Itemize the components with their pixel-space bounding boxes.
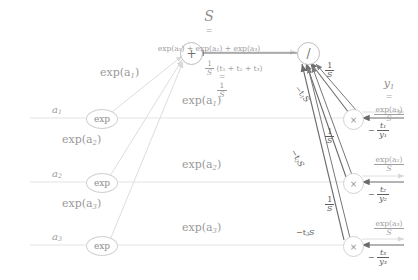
forward-label-rail-2-tail: ) <box>217 158 221 171</box>
node-exp-1: exp <box>86 109 118 129</box>
grad-one-over-s-1-fraction: 1 S <box>325 62 334 79</box>
output-3-den: S <box>374 228 405 237</box>
node-exp-3: exp <box>86 236 118 256</box>
output-3-grad-fraction: t₃ y₃ <box>377 249 389 266</box>
grad-minus-ts-3-tail: S <box>309 228 314 237</box>
forward-label-rail-1: exp(a1) <box>182 94 221 108</box>
output-2-grad-sign: − <box>368 190 375 199</box>
node-exp-2: exp <box>86 173 118 193</box>
grad-one-over-s-3-fraction: 1 S <box>325 196 334 213</box>
grad-one-over-s-2-fraction: 1 S <box>325 128 334 145</box>
output-3-definition: exp(a₃) S <box>364 216 414 237</box>
node-times-1-label: × <box>350 115 358 125</box>
grad-one-over-s-2-den: S <box>325 136 334 145</box>
output-1-fraction: exp(a₁) S <box>374 106 405 122</box>
output-2-grad-den: y₂ <box>377 194 389 203</box>
output-1-grad: − t₁ y₁ <box>368 122 389 139</box>
grad-one-over-s-1: 1 S <box>325 62 334 79</box>
output-2-grad-num: t₂ <box>377 186 389 194</box>
node-divide-label: / <box>306 47 310 61</box>
input-label-2: a2 <box>52 168 62 179</box>
sum-definition: S = exp(a₁) + exp(a₂) + exp(a₃) <box>139 6 279 56</box>
output-1-grad-den: y₁ <box>377 130 389 139</box>
grad-minus-ts-3-text: −t <box>296 228 306 237</box>
forward-to-sum <box>110 56 183 240</box>
input-label-1-sub: 1 <box>58 108 62 115</box>
grad-one-over-s-1-den: S <box>325 70 334 79</box>
forward-label-rail-2: exp(a2) <box>182 158 221 172</box>
softmax-computation-graph: + / exp exp exp × × × S = exp(a₁) + exp(… <box>0 0 418 280</box>
sum-expression: exp(a₁) + exp(a₂) + exp(a₃) <box>158 44 261 53</box>
grad-one-over-s-2: 1 S <box>325 128 334 145</box>
grad-one-over-s-3-num: 1 <box>325 196 334 204</box>
grad-minus-ts-3: −t3S <box>296 228 315 237</box>
forward-label-upper-3-text: exp(a <box>62 197 93 210</box>
input-label-2-sub: 2 <box>58 172 62 179</box>
sum-backward-result-num: 1 <box>217 82 226 90</box>
output-1-grad-sign: − <box>368 126 375 135</box>
node-times-2-label: × <box>350 179 358 189</box>
forward-label-upper-1-tail: ) <box>135 66 139 79</box>
node-divide: / <box>297 42 320 65</box>
output-3-grad-den: y₃ <box>377 257 389 266</box>
node-times-2: × <box>343 173 364 194</box>
forward-label-upper-2: exp(a2) <box>62 133 101 147</box>
node-times-3: × <box>343 236 364 257</box>
input-label-3: a3 <box>52 231 62 242</box>
output-2-grad-fraction: t₂ y₂ <box>377 186 389 203</box>
output-2-fraction: exp(a₂) S <box>374 156 405 172</box>
grad-one-over-s-2-num: 1 <box>325 128 334 136</box>
output-3-grad-num: t₃ <box>377 249 389 257</box>
node-exp-1-label: exp <box>94 114 110 124</box>
grad-one-over-s-3: 1 S <box>325 196 334 213</box>
sum-symbol: S <box>204 8 214 24</box>
input-label-1: a1 <box>52 104 62 115</box>
forward-label-rail-1-tail: ) <box>217 94 221 107</box>
forward-label-rail-3-text: exp(a <box>182 221 213 234</box>
sum-equals: = <box>139 26 279 36</box>
sum-backward-num: 1 <box>205 60 214 68</box>
forward-label-upper-2-tail: ) <box>97 133 101 146</box>
forward-label-upper-2-text: exp(a <box>62 133 93 146</box>
output-1-grad-num: t₁ <box>377 122 389 130</box>
node-exp-2-label: exp <box>94 178 110 188</box>
grad-one-over-s-3-den: S <box>325 204 334 213</box>
output-1-definition: y1 = exp(a₁) S <box>364 72 414 123</box>
node-times-1: × <box>343 109 364 130</box>
output-2-definition: exp(a₂) S <box>364 152 414 173</box>
forward-label-upper-1: exp(a1) <box>100 66 139 80</box>
grad-one-over-s-1-num: 1 <box>325 62 334 70</box>
output-1-symbol-group: y1 <box>384 77 395 90</box>
forward-label-upper-3-tail: ) <box>97 197 101 210</box>
forward-label-rail-2-text: exp(a <box>182 158 213 171</box>
output-1-sub: 1 <box>390 83 394 91</box>
forward-label-upper-1-text: exp(a <box>100 66 131 79</box>
output-3-fraction: exp(a₃) S <box>374 220 405 236</box>
node-times-3-label: × <box>350 242 358 252</box>
output-1-equals: = <box>364 92 414 102</box>
forward-label-upper-3: exp(a3) <box>62 197 101 211</box>
output-2-den: S <box>374 164 405 173</box>
output-1-grad-fraction: t₁ y₁ <box>377 122 389 139</box>
output-3-grad-sign: − <box>368 253 375 262</box>
output-2-num: exp(a₂) <box>374 156 405 164</box>
forward-label-rail-3: exp(a3) <box>182 221 221 235</box>
forward-label-rail-1-text: exp(a <box>182 94 213 107</box>
node-exp-3-label: exp <box>94 241 110 251</box>
input-label-3-sub: 3 <box>58 235 62 242</box>
output-1-num: exp(a₁) <box>374 106 405 114</box>
forward-label-rail-3-tail: ) <box>217 221 221 234</box>
output-3-grad: − t₃ y₃ <box>368 249 389 266</box>
output-3-num: exp(a₃) <box>374 220 405 228</box>
output-2-grad: − t₂ y₂ <box>368 186 389 203</box>
